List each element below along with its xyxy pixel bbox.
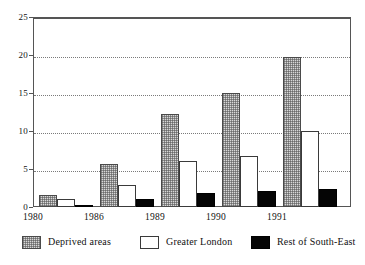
x-axis-label-1991: 1991: [247, 212, 307, 223]
bars-layer: [33, 17, 351, 207]
x-axis-label-1990: 1990: [186, 212, 246, 223]
y-axis-label-5: 5: [4, 165, 28, 174]
legend-item-rest-of-south-east: Rest of South-East: [251, 232, 356, 252]
bar-deprived-1989: [161, 114, 179, 207]
legend-swatch-london-icon: [140, 236, 159, 249]
legend-item-deprived-areas: Deprived areas: [22, 232, 111, 252]
y-axis-label-15: 15: [4, 89, 28, 98]
bar-rest-1990: [258, 191, 276, 207]
bar-rest-1986: [136, 199, 154, 207]
bar-london-1990: [240, 156, 258, 207]
bar-london-1989: [179, 161, 197, 207]
bar-deprived-1986: [100, 164, 118, 207]
y-axis-label-10: 10: [4, 127, 28, 136]
legend-label-london: Greater London: [166, 236, 232, 248]
chart-legend: Deprived areas Greater London Rest of So…: [0, 232, 365, 256]
bar-london-1986: [118, 185, 136, 207]
x-axis-label-1989: 1989: [125, 212, 185, 223]
y-axis-label-0: 0: [4, 203, 28, 212]
legend-item-greater-london: Greater London: [140, 232, 232, 252]
bar-deprived-1991: [283, 57, 301, 207]
x-axis-label-1980: 1980: [3, 212, 63, 223]
bar-chart: 25 20 15 10 5 0 1980 1986 1989 1990 1991: [0, 0, 365, 265]
bar-london-1991: [301, 131, 319, 207]
y-axis-label-25: 25: [4, 13, 28, 22]
legend-swatch-rest-icon: [251, 236, 270, 249]
bar-london-1980: [57, 199, 75, 207]
bar-deprived-1990: [222, 93, 240, 207]
bar-rest-1980: [75, 205, 93, 207]
bar-rest-1991: [319, 189, 337, 207]
legend-label-deprived: Deprived areas: [48, 236, 111, 248]
y-axis-label-20: 20: [4, 51, 28, 60]
x-axis-label-1986: 1986: [64, 212, 124, 223]
legend-label-rest: Rest of South-East: [277, 236, 356, 248]
y-tick-mark-0: [29, 207, 33, 208]
bar-deprived-1980: [39, 195, 57, 207]
bar-rest-1989: [197, 193, 215, 207]
legend-swatch-deprived-icon: [22, 236, 41, 249]
